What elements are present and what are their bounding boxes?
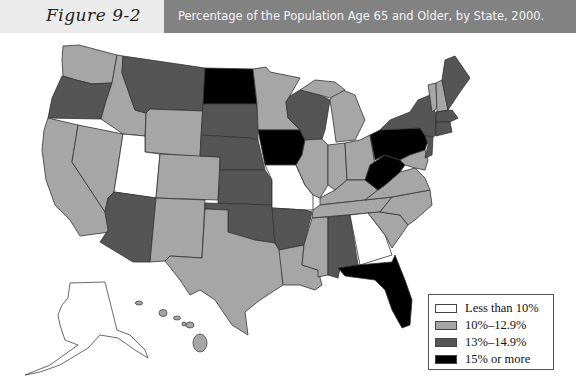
state-arizona [100,192,156,262]
legend-label: 10%–12.9% [465,318,526,333]
state-new-mexico [150,198,205,262]
state-montana [122,56,205,113]
state-south-dakota [201,104,258,140]
state-hawaii [136,301,208,352]
state-massachusetts [436,110,458,122]
state-kansas [218,170,272,205]
legend-item-13-14: 13%–14.9% [435,335,526,349]
legend: Less than 10% 10%–12.9% 13%–14.9% 15% or… [428,294,554,370]
legend-swatch-black [435,355,457,364]
state-michigan [330,88,365,142]
state-colorado [156,154,220,200]
state-florida [338,255,412,328]
state-wyoming [145,109,203,157]
state-maine [442,56,470,110]
legend-item-15-plus: 15% or more [435,352,530,366]
legend-swatch-light-gray [435,321,457,330]
legend-swatch-white [435,304,457,313]
legend-label: 15% or more [465,352,530,367]
legend-swatch-dark-gray [435,338,457,347]
legend-item-10-12: 10%–12.9% [435,318,526,332]
state-alaska [25,282,148,375]
state-north-dakota [203,68,257,104]
legend-label: Less than 10% [465,301,539,316]
state-iowa [258,130,305,165]
legend-label: 13%–14.9% [465,335,526,350]
legend-item-under-10: Less than 10% [435,301,539,315]
state-connecticut [436,122,452,136]
